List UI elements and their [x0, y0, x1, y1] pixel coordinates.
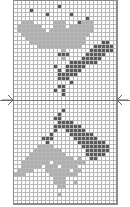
center-line [0, 100, 130, 101]
pattern-grid [13, 0, 118, 205]
arrow-right-icon [2, 94, 14, 106]
arrow-left-icon [116, 94, 128, 106]
colorwork-chart [13, 0, 118, 205]
stitch-background [114, 201, 118, 205]
